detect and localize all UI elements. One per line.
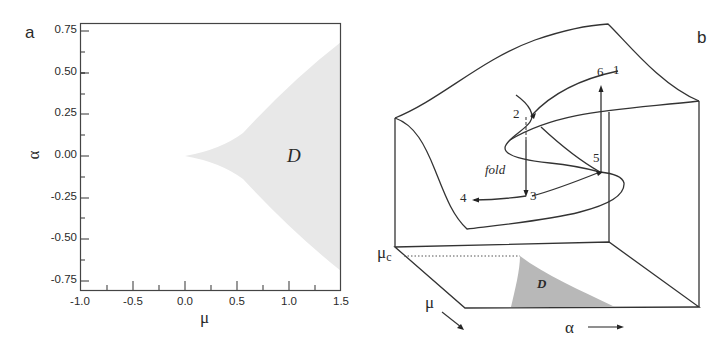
y-tick-label: -0.75 [33,273,77,285]
fold-label: fold [485,162,505,178]
path-3-to-5 [532,172,600,196]
path-point-3: 3 [530,188,537,204]
x-axis-ticks [107,281,315,290]
path-1-to-2 [532,71,618,115]
y-tick-label: 0.25 [33,106,77,118]
surface-left-edge [395,118,624,229]
surface-back-edge [395,24,699,118]
mu-axis-label: μ [425,293,434,313]
y-axis-label: α [24,151,44,160]
y-tick-label: -0.50 [33,231,77,243]
path-point-5: 5 [593,150,600,166]
surface-front-edge-upper [510,101,699,140]
x-tick-label: -1.0 [60,295,100,307]
x-tick-label: 0.5 [217,295,257,307]
y-axis-ticks [80,31,89,281]
path-point-6: 6 [597,64,604,80]
path-point-2: 2 [513,106,520,122]
region-d-fill [185,42,341,271]
y-tick-label: -0.25 [33,190,77,202]
path-3-to-4 [474,196,526,200]
path-point-1: 1 [613,62,620,78]
panel-a-phase-diagram: a 0.75 0.50 0.25 0.00 -0.25 -0.50 -0.75 … [0,0,360,347]
floor-region-d [511,256,615,307]
x-tick-label: -0.5 [113,295,153,307]
x-axis-label: μ [200,308,209,328]
y-tick-label: 0.75 [33,23,77,35]
x-tick-label: 1.5 [321,295,361,307]
path-point-4: 4 [460,190,467,206]
region-d-label: D [287,145,301,167]
floor-region-d-label: D [537,276,546,292]
x-tick-label: 0.0 [165,295,205,307]
mu-c-label: μc [377,243,391,265]
alpha-axis-label: α [565,318,574,338]
y-tick-label: 0.50 [33,65,77,77]
arrow-up-6-icon [599,85,604,92]
arrow-left-4-icon [472,198,479,203]
panel-b-diagram [360,0,720,347]
x-tick-label: 1.0 [269,295,309,307]
panel-b-cusp-surface-diagram: b 1 2 3 4 5 6 fold D μc μ α [360,0,720,347]
panel-label-b: b [697,28,706,48]
mu-axis-arrow-line [442,312,461,327]
